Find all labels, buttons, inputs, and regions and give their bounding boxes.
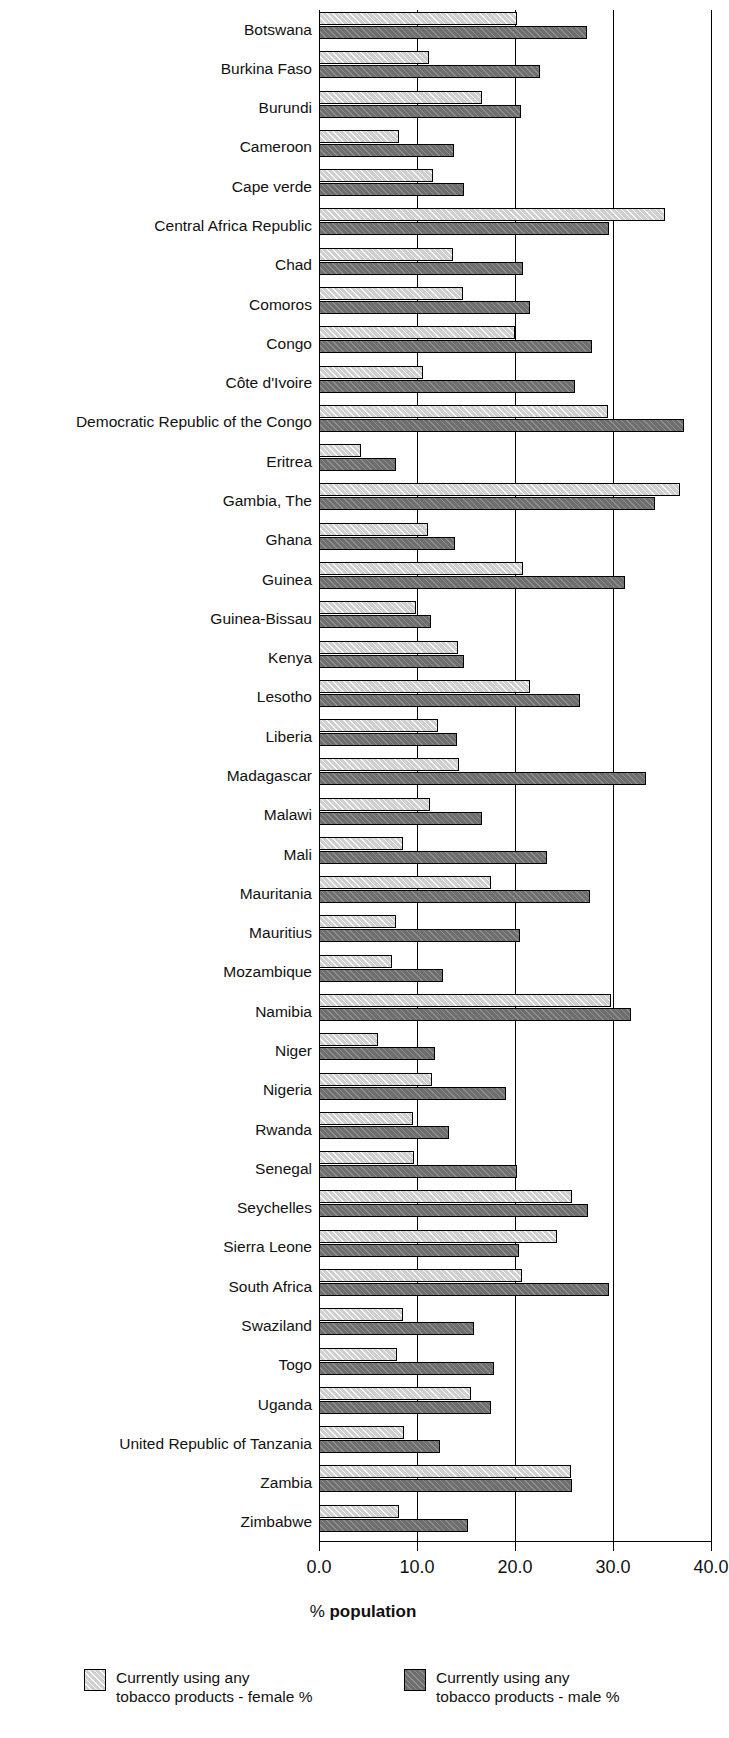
- category-label: Burkina Faso: [0, 61, 312, 77]
- bar-male: [319, 694, 580, 707]
- bar-row: [319, 444, 711, 483]
- category-label: Lesotho: [0, 689, 312, 705]
- bar-female: [319, 405, 608, 418]
- category-label: South Africa: [0, 1279, 312, 1295]
- bar-female: [319, 1230, 557, 1243]
- plot-area: [319, 10, 711, 1542]
- bar-row: [319, 601, 711, 640]
- bar-row: [319, 326, 711, 365]
- bar-row: [319, 1269, 711, 1308]
- bar-female: [319, 1151, 414, 1164]
- bar-male: [319, 144, 454, 157]
- bar-row: [319, 1073, 711, 1112]
- category-label: Mozambique: [0, 964, 312, 980]
- x-tick-label: 40.0: [693, 1556, 728, 1578]
- bar-row: [319, 641, 711, 680]
- bar-female: [319, 876, 491, 889]
- legend-label-male: Currently using any tobacco products - m…: [436, 1668, 620, 1706]
- bar-female: [319, 758, 459, 771]
- bar-male: [319, 105, 521, 118]
- bar-female: [319, 1269, 522, 1282]
- category-label: Seychelles: [0, 1200, 312, 1216]
- category-label: Liberia: [0, 729, 312, 745]
- legend-item-male: Currently using any tobacco products - m…: [404, 1668, 620, 1706]
- bar-male: [319, 301, 530, 314]
- bar-row: [319, 1151, 711, 1190]
- category-label: Uganda: [0, 1397, 312, 1413]
- tick-40.0: [711, 1542, 712, 1551]
- category-label: Democratic Republic of the Congo: [0, 414, 312, 430]
- bar-male: [319, 340, 592, 353]
- bar-male: [319, 1087, 506, 1100]
- bar-row: [319, 483, 711, 522]
- bar-female: [319, 366, 423, 379]
- x-tick-label: 20.0: [497, 1556, 532, 1578]
- category-label: Zambia: [0, 1475, 312, 1491]
- category-label: Rwanda: [0, 1122, 312, 1138]
- category-label: Eritrea: [0, 454, 312, 470]
- bar-row: [319, 169, 711, 208]
- bar-row: [319, 1426, 711, 1465]
- x-axis-title-prefix: %: [310, 1602, 330, 1621]
- bar-male: [319, 497, 655, 510]
- bar-female: [319, 1348, 397, 1361]
- x-axis-tick-labels: 0.010.020.030.040.0: [0, 1556, 726, 1582]
- bar-female: [319, 91, 482, 104]
- bar-row: [319, 758, 711, 797]
- bar-male: [319, 458, 396, 471]
- bar-row: [319, 680, 711, 719]
- category-label: Gambia, The: [0, 493, 312, 509]
- bar-female: [319, 1505, 399, 1518]
- bar-female: [319, 130, 399, 143]
- category-label: Chad: [0, 257, 312, 273]
- bar-female: [319, 837, 403, 850]
- category-label: United Republic of Tanzania: [0, 1436, 312, 1452]
- bar-male: [319, 1283, 609, 1296]
- bar-male: [319, 1047, 435, 1060]
- bar-row: [319, 248, 711, 287]
- bar-female: [319, 523, 428, 536]
- bar-male: [319, 1204, 588, 1217]
- category-label: Burundi: [0, 100, 312, 116]
- gridline-40.0: [711, 10, 712, 1542]
- category-label: Kenya: [0, 650, 312, 666]
- bar-male: [319, 537, 455, 550]
- bar-male: [319, 65, 540, 78]
- bar-male: [319, 772, 646, 785]
- bar-female: [319, 326, 515, 339]
- bar-female: [319, 955, 392, 968]
- category-axis-labels: BotswanaBurkina FasoBurundiCameroonCape …: [0, 10, 312, 1542]
- category-label: Togo: [0, 1357, 312, 1373]
- bar-female: [319, 641, 458, 654]
- bar-male: [319, 1244, 519, 1257]
- bar-row: [319, 798, 711, 837]
- x-tick-label: 0.0: [306, 1556, 331, 1578]
- category-label: Cameroon: [0, 139, 312, 155]
- bar-female: [319, 1112, 413, 1125]
- category-label: Guinea-Bissau: [0, 611, 312, 627]
- category-label: Niger: [0, 1043, 312, 1059]
- bar-row: [319, 955, 711, 994]
- bar-row: [319, 719, 711, 758]
- bar-female: [319, 601, 416, 614]
- x-axis-title: % population: [0, 1602, 726, 1622]
- bar-male: [319, 929, 520, 942]
- bar-male: [319, 812, 482, 825]
- bar-row: [319, 915, 711, 954]
- bar-row: [319, 208, 711, 247]
- bar-row: [319, 12, 711, 51]
- bar-female: [319, 483, 680, 496]
- bar-row: [319, 523, 711, 562]
- bar-row: [319, 91, 711, 130]
- bar-row: [319, 1190, 711, 1229]
- bar-male: [319, 222, 609, 235]
- category-label: Senegal: [0, 1161, 312, 1177]
- bar-row: [319, 366, 711, 405]
- category-label: Mali: [0, 847, 312, 863]
- bar-row: [319, 1230, 711, 1269]
- bar-female: [319, 1465, 571, 1478]
- male-swatch-icon: [404, 1669, 426, 1691]
- bar-female: [319, 169, 433, 182]
- bar-male: [319, 851, 547, 864]
